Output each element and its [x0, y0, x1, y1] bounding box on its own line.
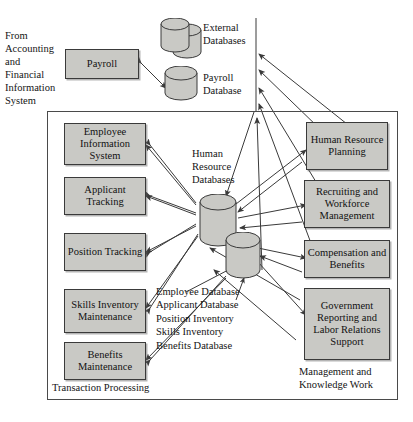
external-databases-label: External Databases	[203, 22, 265, 48]
box-human-resource-planning[interactable]: Human Resource Planning	[306, 122, 388, 170]
box-government-reporting-labor-relations[interactable]: Government Reporting and Labor Relations…	[304, 288, 390, 360]
transaction-processing-caption: Transaction Processing	[52, 382, 149, 395]
box-skills-inventory-maintenance[interactable]: Skills Inventory Maintenance	[64, 289, 146, 333]
box-benefits-maintenance[interactable]: Benefits Maintenance	[64, 342, 146, 380]
payroll-database-cylinder-icon	[163, 66, 199, 102]
payroll-database-label: Payroll Database	[203, 72, 265, 98]
database-list: Employee Database Applicant Database Pos…	[156, 285, 296, 352]
human-resource-databases-label: Human Resource Databases	[192, 148, 262, 187]
box-applicant-tracking[interactable]: Applicant Tracking	[64, 177, 146, 215]
box-recruiting-workforce-management[interactable]: Recruiting and Workforce Management	[304, 180, 390, 228]
box-position-tracking[interactable]: Position Tracking	[64, 233, 146, 271]
hris-diagram: From Accounting and Financial Informatio…	[0, 0, 413, 422]
box-employee-information-system[interactable]: Employee Information System	[64, 123, 146, 165]
management-knowledge-work-caption: Management and Knowledge Work	[299, 366, 395, 392]
source-system-label: From Accounting and Financial Informatio…	[5, 30, 67, 107]
payroll-box[interactable]: Payroll	[65, 49, 139, 79]
hr-database-cylinder-lower-icon	[224, 232, 262, 280]
box-compensation-and-benefits[interactable]: Compensation and Benefits	[304, 240, 390, 278]
